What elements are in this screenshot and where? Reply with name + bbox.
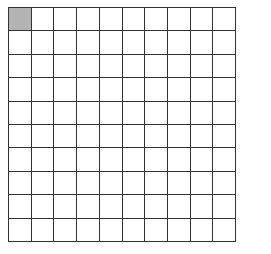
grid-cell (77, 55, 100, 78)
grid-cell (100, 125, 123, 148)
grid-cell (213, 31, 236, 54)
grid-cell (123, 172, 146, 195)
grid-cell (213, 8, 236, 31)
grid-cell (9, 148, 32, 171)
grid-cell (168, 31, 191, 54)
grid-cell (168, 102, 191, 125)
grid-cell (145, 55, 168, 78)
grid-cell (191, 8, 214, 31)
grid-cell (168, 172, 191, 195)
grid-cell (77, 219, 100, 242)
grid-cell (145, 148, 168, 171)
grid-cell (32, 219, 55, 242)
grid-cell (9, 102, 32, 125)
grid-cell (100, 78, 123, 101)
grid-cell (9, 219, 32, 242)
grid-cell (100, 219, 123, 242)
grid-cell (54, 148, 77, 171)
grid-cell (145, 31, 168, 54)
grid-cell (54, 172, 77, 195)
grid-cell (32, 172, 55, 195)
grid-cell (168, 195, 191, 218)
grid-cell (32, 102, 55, 125)
grid-cell (123, 8, 146, 31)
grid-cell (191, 78, 214, 101)
grid-cell (32, 55, 55, 78)
grid-cell (168, 219, 191, 242)
grid-cell (168, 148, 191, 171)
grid-cell (100, 102, 123, 125)
grid-cell (213, 55, 236, 78)
grid-cell (77, 125, 100, 148)
grid-cell (77, 148, 100, 171)
grid-cell (9, 55, 32, 78)
grid-cell (213, 148, 236, 171)
grid-cell (123, 219, 146, 242)
hundred-grid (8, 7, 236, 242)
grid-cell (168, 55, 191, 78)
grid-cell (77, 195, 100, 218)
grid-cell (145, 195, 168, 218)
grid-cell (145, 172, 168, 195)
grid-cell (191, 195, 214, 218)
grid-cell (77, 31, 100, 54)
grid-cell (191, 31, 214, 54)
grid-cell (32, 31, 55, 54)
grid-cell (213, 78, 236, 101)
grid-cell (145, 125, 168, 148)
grid-cell (100, 55, 123, 78)
grid-cell (123, 31, 146, 54)
grid-cell (100, 31, 123, 54)
grid-cell (9, 195, 32, 218)
grid-cell (54, 31, 77, 54)
grid-cell (77, 102, 100, 125)
grid-cell (213, 102, 236, 125)
grid-cell (32, 125, 55, 148)
grid-cell (9, 172, 32, 195)
grid-cell (191, 219, 214, 242)
grid-cell (32, 195, 55, 218)
grid-cell (213, 195, 236, 218)
grid-cell (168, 125, 191, 148)
grid-cell (191, 125, 214, 148)
grid-cell (9, 125, 32, 148)
grid-cell (9, 31, 32, 54)
grid-cell (54, 102, 77, 125)
grid-cell (100, 195, 123, 218)
grid-cell (123, 102, 146, 125)
grid-cell (191, 172, 214, 195)
grid-cell (145, 219, 168, 242)
grid-cell (191, 148, 214, 171)
grid-cell (123, 195, 146, 218)
grid-cell (54, 78, 77, 101)
grid-cell (213, 125, 236, 148)
grid-cell (123, 148, 146, 171)
grid-cell (77, 172, 100, 195)
grid-cell (191, 55, 214, 78)
grid-cell (100, 172, 123, 195)
grid-cell (145, 8, 168, 31)
grid-cell (32, 8, 55, 31)
grid-cell (32, 78, 55, 101)
grid-cell (54, 195, 77, 218)
grid-cell (54, 219, 77, 242)
grid-cell (213, 172, 236, 195)
grid-cell (100, 148, 123, 171)
grid-cell (54, 125, 77, 148)
grid-cell (9, 78, 32, 101)
grid-cell (77, 78, 100, 101)
grid-cell (54, 55, 77, 78)
grid-cell (191, 102, 214, 125)
grid-cell (32, 148, 55, 171)
grid-cell (145, 78, 168, 101)
grid-cell (54, 8, 77, 31)
grid-cell (100, 8, 123, 31)
grid-cell (168, 8, 191, 31)
grid-cell (213, 219, 236, 242)
grid-cell (123, 78, 146, 101)
grid-cell (145, 102, 168, 125)
shaded-cell (9, 8, 32, 31)
grid-cell (168, 78, 191, 101)
grid-cell (77, 8, 100, 31)
grid-cell (123, 55, 146, 78)
